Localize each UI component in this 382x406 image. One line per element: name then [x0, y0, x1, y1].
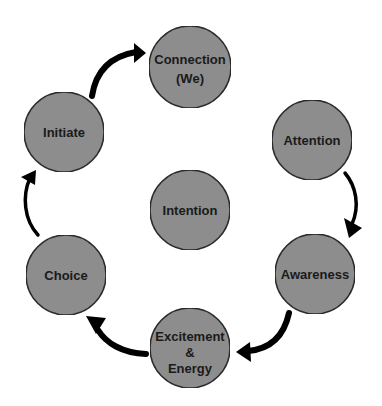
node-label: Awareness — [281, 267, 349, 282]
node-label: Energy — [168, 361, 213, 376]
node-label: Choice — [44, 268, 87, 283]
node-label: & — [185, 345, 194, 360]
node-label: Excitement — [155, 329, 225, 344]
node-attention: Attention — [272, 100, 352, 180]
arrow-attention-to-awareness — [344, 173, 362, 238]
node-choice: Choice — [26, 235, 106, 315]
node-intention-center: Intention — [150, 170, 230, 250]
node-label: (We) — [176, 71, 204, 86]
arrow-excitement-to-choice — [86, 316, 146, 354]
node-awareness: Awareness — [275, 234, 355, 314]
arrowhead-icon — [236, 342, 251, 362]
node-label: Initiate — [43, 125, 85, 140]
arrow-choice-to-initiate — [21, 170, 38, 235]
node-label: Connection — [154, 52, 226, 67]
arrowhead-icon — [134, 43, 146, 63]
node-initiate: Initiate — [24, 92, 104, 172]
cycle-diagram: Connection (We) Initiate Attention Inten… — [0, 0, 382, 406]
node-label: Attention — [283, 133, 340, 148]
node-label: Intention — [163, 203, 218, 218]
node-excitement-energy: Excitement & Energy — [150, 308, 230, 388]
node-connection: Connection (We) — [149, 26, 231, 108]
arrow-initiate-to-connection — [92, 43, 146, 96]
arrow-awareness-to-excitement — [236, 313, 289, 362]
